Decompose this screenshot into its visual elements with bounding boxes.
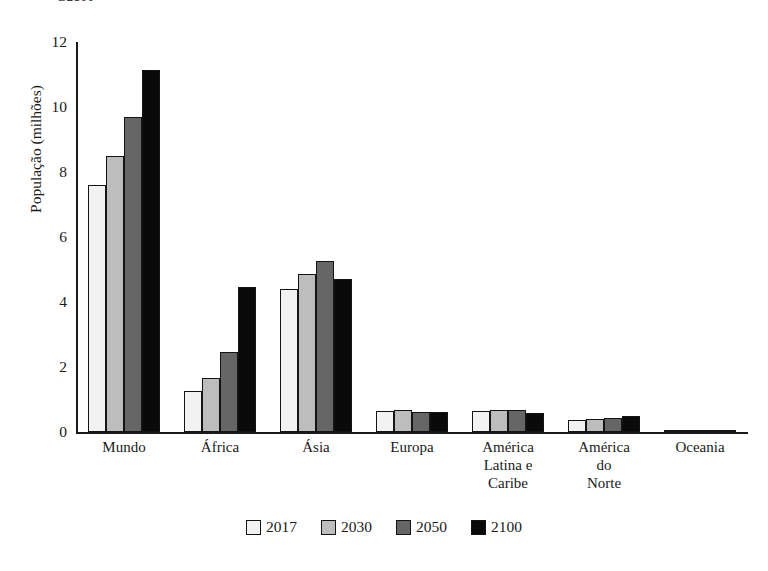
bar-2030-américa-latina-e-caribe[interactable] [490,410,508,432]
bar-2017-europa[interactable] [376,411,394,432]
bar-group: África [172,42,268,432]
bar-2017-mundo[interactable] [88,185,106,432]
bar-2030-mundo[interactable] [106,156,124,432]
y-tick-label: 10 [52,98,68,116]
x-tick-label: América do Norte [578,438,630,492]
grouped-bar-chart: População (milhões) 024681012 MundoÁfric… [0,0,768,571]
legend-item-2100[interactable]: 2100 [471,518,522,536]
legend-label: 2100 [491,518,522,536]
bar-group-bars [76,42,172,432]
bar-2017-ásia[interactable] [280,289,298,432]
bar-group-bars [364,42,460,432]
bar-2050-américa-do-norte[interactable] [604,418,622,432]
y-tick-label: 12 [52,33,68,51]
y-tick-label: 4 [59,293,67,311]
bar-2017-américa-do-norte[interactable] [568,420,586,432]
bar-2017-oceania[interactable] [664,430,682,432]
bar-group-bars [652,42,748,432]
bar-group: América Latina e Caribe [460,42,556,432]
bar-group-bars [556,42,652,432]
bar-group-bars [460,42,556,432]
bar-2100-oceania[interactable] [718,430,736,432]
legend-swatch-icon [246,520,261,535]
x-tick-label: África [201,438,239,456]
plot-area: 024681012 MundoÁfricaÁsiaEuropaAmérica L… [76,42,748,432]
bar-2050-áfrica[interactable] [220,352,238,432]
bar-2100-europa[interactable] [430,412,448,432]
bar-2017-áfrica[interactable] [184,391,202,432]
bar-2050-oceania[interactable] [700,430,718,432]
bar-2030-oceania[interactable] [682,430,700,432]
y-tick-label: 6 [59,228,67,246]
bar-group-bars [268,42,364,432]
legend-item-2050[interactable]: 2050 [396,518,447,536]
legend-item-2017[interactable]: 2017 [246,518,297,536]
bar-group: Ásia [268,42,364,432]
legend-swatch-icon [321,520,336,535]
bar-2100-américa-latina-e-caribe[interactable] [526,413,544,433]
x-tick-label: América Latina e Caribe [482,438,534,492]
x-tick-label: Oceania [675,438,724,456]
chart-legend: 2017203020502100 [0,518,768,536]
bar-group: América do Norte [556,42,652,432]
bar-2030-áfrica[interactable] [202,378,220,432]
bar-2030-europa[interactable] [394,410,412,432]
x-axis-line [76,432,748,434]
legend-label: 2030 [341,518,372,536]
x-tick-label: Mundo [102,438,145,456]
bar-2050-mundo[interactable] [124,117,142,432]
legend-item-2030[interactable]: 2030 [321,518,372,536]
x-tick-label: Europa [390,438,433,456]
bar-2030-ásia[interactable] [298,274,316,432]
bar-2030-américa-do-norte[interactable] [586,419,604,432]
y-tick-label: 0 [59,423,67,441]
legend-swatch-icon [471,520,486,535]
bar-2100-mundo[interactable] [142,70,160,432]
x-tick-label: Ásia [302,438,330,456]
y-axis-title: População (milhões) [27,49,45,249]
bar-group: Mundo [76,42,172,432]
legend-label: 2017 [266,518,297,536]
y-tick-label: 2 [59,358,67,376]
legend-label: 2050 [416,518,447,536]
bar-2050-américa-latina-e-caribe[interactable] [508,410,526,432]
bar-2017-américa-latina-e-caribe[interactable] [472,411,490,432]
bar-2100-áfrica[interactable] [238,287,256,432]
bar-group: Oceania [652,42,748,432]
y-tick-label: 8 [59,163,67,181]
legend-swatch-icon [396,520,411,535]
bar-2050-ásia[interactable] [316,261,334,432]
bar-2050-europa[interactable] [412,412,430,432]
bar-group-bars [172,42,268,432]
bar-2100-ásia[interactable] [334,279,352,432]
bar-group: Europa [364,42,460,432]
bar-2100-américa-do-norte[interactable] [622,416,640,432]
